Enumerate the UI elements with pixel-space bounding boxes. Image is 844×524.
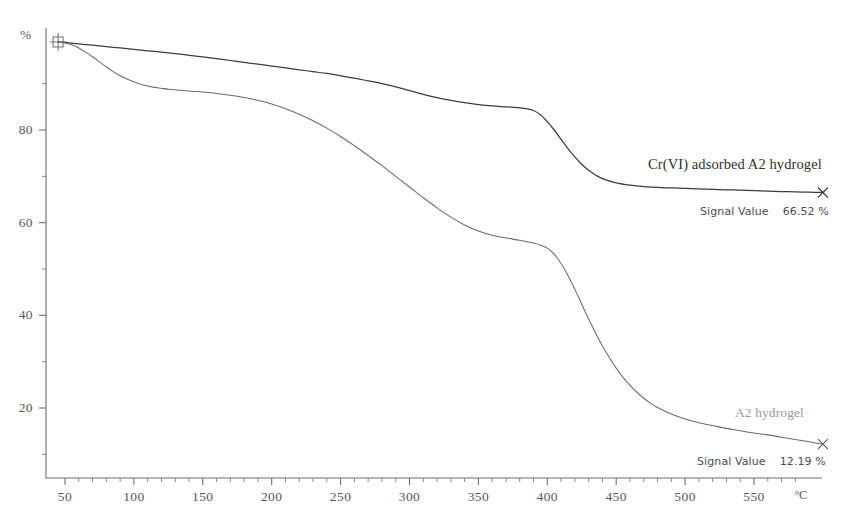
signal-value-lower-number: 12.19 %	[780, 455, 826, 468]
tga-chart: 5010015020025030035040045050055020406080…	[0, 0, 844, 524]
axis-lines	[46, 28, 822, 478]
y-tick-label: 40	[0, 308, 33, 322]
y-axis-unit-label: %	[20, 28, 31, 42]
signal-value-upper: Signal Value66.52 %	[700, 206, 829, 217]
x-axis-unit-label: ºC	[795, 489, 807, 502]
x-tick-label: 300	[395, 490, 425, 504]
x-tick-label: 550	[739, 490, 769, 504]
x-tick-label: 400	[532, 490, 562, 504]
signal-value-lower: Signal Value12.19 %	[697, 456, 826, 467]
x-tick-label: 150	[188, 490, 218, 504]
y-tick-label: 60	[0, 216, 33, 230]
x-tick-label: 100	[119, 490, 149, 504]
series-start-marker	[50, 33, 66, 51]
x-tick-label: 500	[670, 490, 700, 504]
curves-group	[58, 42, 823, 444]
signal-value-lower-label: Signal Value	[697, 455, 766, 468]
chart-canvas	[0, 0, 844, 524]
x-tick-label: 200	[257, 490, 287, 504]
y-tick-label: 20	[0, 401, 33, 415]
series-curve	[58, 42, 823, 444]
x-tick-label: 50	[50, 490, 80, 504]
series-label-cr-vi-adsorbed-a2-hydrogel: Cr(VI) adsorbed A2 hydrogel	[648, 157, 822, 172]
series-label-a2-hydrogel: A2 hydrogel	[735, 406, 804, 420]
y-tick-label: 80	[0, 123, 33, 137]
signal-value-upper-label: Signal Value	[700, 205, 769, 218]
x-tick-label: 350	[463, 490, 493, 504]
x-tick-label: 450	[601, 490, 631, 504]
series-end-marker-x	[818, 439, 828, 449]
x-tick-label: 250	[326, 490, 356, 504]
end-markers-group	[50, 33, 828, 449]
signal-value-upper-number: 66.52 %	[783, 205, 829, 218]
